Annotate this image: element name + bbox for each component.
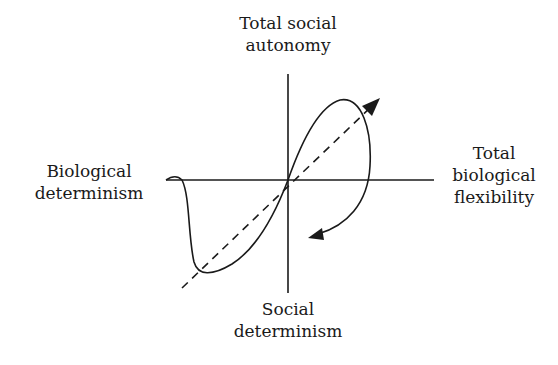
- dashed-diagonal: [182, 106, 372, 288]
- label-top-line1: Total social: [218, 12, 358, 34]
- label-right-line1: Total: [434, 142, 554, 164]
- label-bottom: Social determinism: [228, 298, 348, 342]
- label-left-line1: Biological: [14, 160, 164, 182]
- label-top: Total social autonomy: [218, 12, 358, 56]
- curve-arrowhead-icon: [308, 228, 324, 240]
- s-curve: [166, 100, 370, 273]
- label-bottom-line2: determinism: [228, 320, 348, 342]
- label-right-line3: flexibility: [434, 186, 554, 208]
- label-left: Biological determinism: [14, 160, 164, 204]
- label-right-line2: biological: [434, 164, 554, 186]
- label-right: Total biological flexibility: [434, 142, 554, 208]
- label-left-line2: determinism: [14, 182, 164, 204]
- label-top-line2: autonomy: [218, 34, 358, 56]
- label-bottom-line1: Social: [228, 298, 348, 320]
